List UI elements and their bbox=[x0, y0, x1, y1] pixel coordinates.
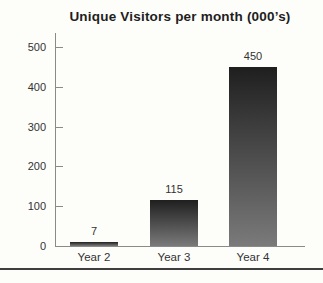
y-tick bbox=[56, 246, 63, 247]
y-tick-label: 500 bbox=[8, 41, 46, 53]
x-axis-line bbox=[55, 246, 305, 247]
bar-value-label: 450 bbox=[219, 50, 287, 63]
y-tick bbox=[56, 206, 63, 207]
y-tick bbox=[56, 87, 63, 88]
x-category-label: Year 2 bbox=[60, 251, 128, 264]
y-tick-label: 300 bbox=[8, 121, 46, 133]
bar-year-2 bbox=[70, 242, 118, 246]
bar-value-label: 115 bbox=[140, 183, 208, 196]
y-tick-label: 100 bbox=[8, 200, 46, 212]
bar-chart-figure: Unique Visitors per month (000’s) 010020… bbox=[0, 0, 323, 283]
y-tick-label: 200 bbox=[8, 160, 46, 172]
y-tick bbox=[56, 166, 63, 167]
y-axis-line bbox=[55, 33, 56, 247]
y-tick bbox=[56, 127, 63, 128]
y-tick-label: 0 bbox=[8, 240, 46, 252]
bar-year-4 bbox=[229, 67, 277, 246]
bar-year-3 bbox=[150, 200, 198, 246]
bar-value-label: 7 bbox=[60, 225, 128, 238]
x-category-label: Year 4 bbox=[219, 251, 287, 264]
y-tick-label: 400 bbox=[8, 81, 46, 93]
y-tick bbox=[56, 47, 63, 48]
bottom-rule bbox=[0, 268, 323, 270]
x-category-label: Year 3 bbox=[140, 251, 208, 264]
chart-title: Unique Visitors per month (000’s) bbox=[50, 9, 310, 24]
